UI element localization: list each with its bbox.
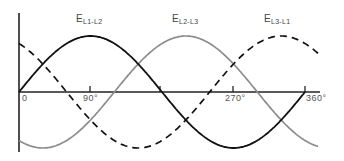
tick-label-0: 0 (22, 93, 28, 103)
label-el2-l3: EL2-L3 (172, 13, 198, 25)
tick-label-270: 270° (225, 93, 246, 103)
tick-label-360: 360° (306, 93, 327, 103)
label-el3-l1: EL3-L1 (264, 13, 290, 25)
label-el1-l2: EL1-L2 (76, 13, 102, 25)
tick-label-90: 90° (83, 93, 98, 103)
